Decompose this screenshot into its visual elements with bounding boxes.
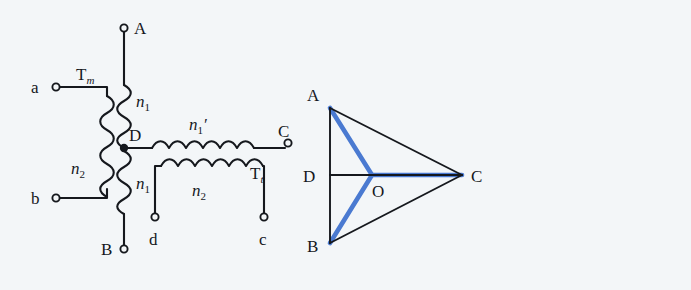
label-n1-lower: n1 [136,174,150,195]
label-terminal-a: a [31,78,39,97]
label-terminal-b: b [31,189,40,208]
phasor-delta-black [330,108,462,243]
terminal-b [52,194,59,201]
scott-connection-circuit [60,31,285,246]
label-terminal-d: d [149,230,158,249]
phasor-triangle: A B C D O [303,86,482,256]
circuit-labels: A a b B d c C D [31,19,289,259]
label-vertex-O: O [372,182,384,201]
terminal-a [52,83,59,90]
label-terminal-C: C [278,122,289,141]
label-Tt: Tt [250,164,264,185]
label-vertex-D: D [303,167,315,186]
label-terminal-B: B [101,240,112,259]
terminal-d [151,213,158,220]
wire-d-lead [155,166,161,214]
label-vertex-C: C [471,167,482,186]
terminal-A [120,24,127,31]
label-n2-primary: n2 [71,159,85,180]
coil-n2-secondary [161,159,263,166]
label-terminal-c: c [259,230,267,249]
junction-dot-D [120,144,128,152]
label-n2-secondary: n2 [192,181,206,202]
terminal-B [120,245,127,252]
coil-n1-lower [117,151,131,214]
wire-a-lead [60,87,107,96]
label-junction-D: D [129,126,141,145]
label-terminal-A: A [134,19,147,38]
circuit-terminals [52,24,291,252]
coil-n2-primary [100,96,114,197]
figure-canvas: A a b B d c C D [0,0,691,290]
label-n1-upper: n1 [136,92,150,113]
coil-n1-prime [152,141,254,148]
label-Tm: Tm [76,65,94,86]
terminal-c [260,213,267,220]
label-vertex-A: A [307,86,320,105]
figure-root: A a b B d c C D [0,0,691,290]
label-n1-prime: n1′ [189,115,207,136]
label-vertex-B: B [307,237,318,256]
